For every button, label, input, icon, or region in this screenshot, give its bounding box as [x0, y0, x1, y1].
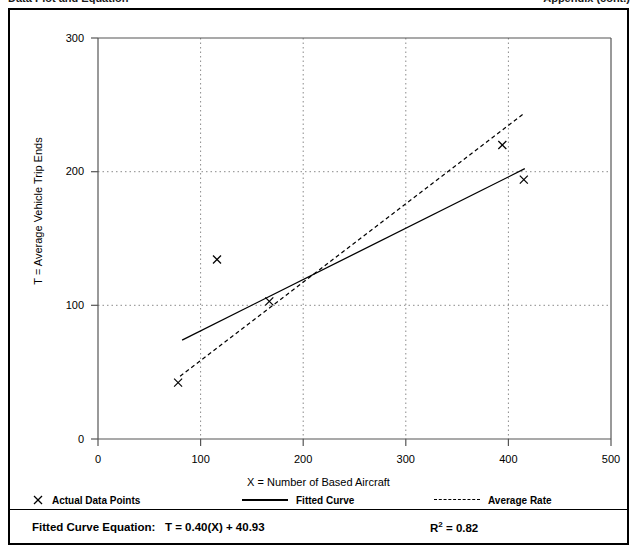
ytick-label-100: 100	[44, 300, 84, 311]
figure: 300 200 100 0 0 100 200 300 400 500 T = …	[10, 10, 627, 509]
equation-label: Fitted Curve Equation:	[32, 521, 155, 533]
page-header-right: Appendix (cont.)	[543, 0, 630, 5]
chart-svg	[10, 10, 627, 480]
legend-label-average-rate: Average Rate	[488, 495, 552, 506]
page-header-left: Data Plot and Equation	[8, 0, 128, 5]
series-fitted-curve-line	[182, 169, 525, 340]
series-actual-data-points	[174, 141, 528, 387]
xtick-label-200: 200	[283, 454, 323, 465]
y-axis-label: T = Average Vehicle Trip Ends	[32, 111, 44, 311]
equation-value: T = 0.40(X) + 40.93	[165, 521, 265, 533]
legend-item-actual-data-points: Actual Data Points	[32, 494, 140, 506]
tick-marks	[91, 38, 611, 446]
legend-item-average-rate: Average Rate	[434, 494, 552, 506]
xtick-label-500: 500	[591, 454, 631, 465]
ytick-label-200: 200	[44, 166, 84, 177]
legend-item-fitted-curve: Fitted Curve	[242, 494, 354, 506]
legend-label-actual-data-points: Actual Data Points	[52, 495, 140, 506]
xtick-label-400: 400	[488, 454, 528, 465]
figure-frame: 300 200 100 0 0 100 200 300 400 500 T = …	[8, 8, 629, 545]
xtick-label-0: 0	[78, 454, 118, 465]
xtick-label-300: 300	[386, 454, 426, 465]
r-squared-exponent: 2	[438, 520, 442, 529]
plot-area: 300 200 100 0 0 100 200 300 400 500 T = …	[10, 10, 627, 480]
data-point-marker	[498, 141, 506, 149]
ytick-label-300: 300	[44, 33, 84, 44]
xtick-label-100: 100	[181, 454, 221, 465]
dashed-line-icon	[434, 494, 480, 506]
x-marker-icon	[32, 494, 44, 506]
page-header: Data Plot and Equation Appendix (cont.)	[8, 0, 630, 5]
solid-line-icon	[242, 494, 288, 506]
x-axis-label: X = Number of Based Aircraft	[10, 476, 627, 488]
data-point-marker	[265, 297, 273, 305]
legend-label-fitted-curve: Fitted Curve	[296, 495, 354, 506]
figure-footer: Fitted Curve Equation: T = 0.40(X) + 40.…	[10, 510, 627, 543]
r-squared-value: = 0.82	[446, 521, 478, 533]
r-squared: R2 = 0.82	[430, 520, 478, 534]
fitted-curve-equation: Fitted Curve Equation: T = 0.40(X) + 40.…	[32, 521, 265, 533]
data-point-marker	[174, 379, 182, 387]
ytick-label-0: 0	[44, 434, 84, 445]
data-point-marker	[213, 256, 221, 264]
series-average-rate-line	[180, 114, 523, 376]
data-point-marker	[520, 176, 528, 184]
chart-legend: Actual Data Points Fitted Curve Average …	[10, 494, 627, 510]
